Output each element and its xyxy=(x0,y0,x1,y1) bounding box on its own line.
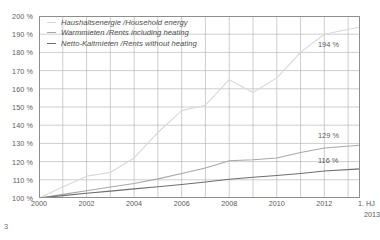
y-tick-label: 140 % xyxy=(12,121,33,130)
y-axis-labels: 100 %110 %120 %130 %140 %150 %160 %170 %… xyxy=(0,16,37,198)
series-end-value-label: 129 % xyxy=(318,131,339,140)
y-tick-label: 180 % xyxy=(12,48,33,57)
legend-item: Netto-Kaltmieten /Rents without heating xyxy=(47,38,197,49)
x-tick-label-last: 1. HJ xyxy=(358,199,375,208)
x-tick-label: 2008 xyxy=(221,199,237,208)
y-tick-label: 130 % xyxy=(12,139,33,148)
series-end-value-label: 116 % xyxy=(318,156,338,165)
x-tick-label: 2000 xyxy=(31,199,47,208)
y-tick-label: 120 % xyxy=(12,157,33,166)
legend-item: Warmmieten /Rents including heating xyxy=(47,28,197,39)
series-end-value-label: 194 % xyxy=(318,40,339,49)
x-tick-label: 2002 xyxy=(79,199,95,208)
legend-label: Netto-Kaltmieten /Rents without heating xyxy=(61,39,197,48)
legend-item: Haushaltsenergie /Household energy xyxy=(47,17,197,28)
y-tick-label: 160 % xyxy=(12,84,33,93)
y-tick-label: 200 % xyxy=(12,12,33,21)
legend-label: Warmmieten /Rents including heating xyxy=(61,28,189,37)
x-tick-label: 2006 xyxy=(174,199,190,208)
x-tick-label-last-year: 2013 xyxy=(364,210,380,219)
y-tick-label: 150 % xyxy=(12,103,33,112)
y-tick-label: 170 % xyxy=(12,66,33,75)
legend-label: Haushaltsenergie /Household energy xyxy=(61,18,188,27)
legend-swatch-line-icon xyxy=(47,22,56,23)
y-tick-label: 110 % xyxy=(13,175,33,184)
x-tick-label: 2010 xyxy=(269,199,285,208)
x-axis-labels: 20002002200420062008201020121. HJ2013 xyxy=(0,199,371,213)
y-tick-label: 190 % xyxy=(12,30,33,39)
legend-swatch-line-icon xyxy=(47,43,56,44)
page-number: 3 xyxy=(4,222,8,231)
chart-legend: Haushaltsenergie /Household energyWarmmi… xyxy=(47,17,197,49)
legend-swatch-line-icon xyxy=(47,32,56,33)
x-tick-label: 2004 xyxy=(126,199,142,208)
x-tick-label: 2012 xyxy=(316,199,332,208)
